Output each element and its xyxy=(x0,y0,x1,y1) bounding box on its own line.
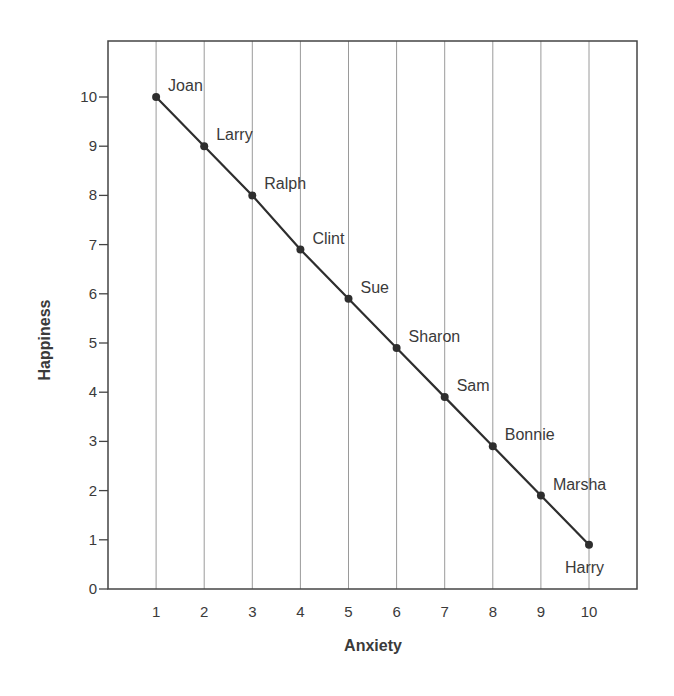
point-label-bonnie: Bonnie xyxy=(505,426,555,443)
data-point xyxy=(393,344,401,352)
y-axis-ticks: 012345678910 xyxy=(80,88,108,597)
data-line xyxy=(156,97,589,545)
data-point xyxy=(152,93,160,101)
y-tick-label: 5 xyxy=(89,334,97,351)
x-tick-label: 4 xyxy=(296,603,304,620)
point-label-sam: Sam xyxy=(457,377,490,394)
point-label-larry: Larry xyxy=(216,126,252,143)
x-tick-label: 3 xyxy=(248,603,256,620)
point-label-harry: Harry xyxy=(565,559,604,576)
vertical-gridlines xyxy=(156,41,589,589)
y-tick-label: 7 xyxy=(89,236,97,253)
x-axis-title: Anxiety xyxy=(344,637,402,654)
y-tick-label: 0 xyxy=(89,580,97,597)
scatter-line-chart: 012345678910 12345678910 JoanLarryRalphC… xyxy=(0,0,674,696)
point-label-marsha: Marsha xyxy=(553,476,606,493)
x-tick-label: 6 xyxy=(392,603,400,620)
x-tick-label: 7 xyxy=(441,603,449,620)
data-point xyxy=(345,295,353,303)
y-tick-label: 4 xyxy=(89,383,97,400)
data-point xyxy=(537,492,545,500)
point-label-joan: Joan xyxy=(168,77,203,94)
point-label-ralph: Ralph xyxy=(264,175,306,192)
data-point xyxy=(248,191,256,199)
point-label-sue: Sue xyxy=(361,279,390,296)
y-axis-title: Happiness xyxy=(36,299,53,380)
y-tick-label: 9 xyxy=(89,137,97,154)
x-tick-label: 10 xyxy=(581,603,598,620)
data-points: JoanLarryRalphClintSueSharonSamBonnieMar… xyxy=(152,77,606,576)
point-label-clint: Clint xyxy=(312,230,345,247)
x-tick-label: 5 xyxy=(344,603,352,620)
y-tick-label: 3 xyxy=(89,432,97,449)
data-point xyxy=(489,442,497,450)
y-tick-label: 2 xyxy=(89,482,97,499)
x-axis-tick-labels: 12345678910 xyxy=(152,603,597,620)
x-tick-label: 9 xyxy=(537,603,545,620)
x-tick-label: 1 xyxy=(152,603,160,620)
plot-frame xyxy=(108,41,637,589)
x-tick-label: 8 xyxy=(489,603,497,620)
y-tick-label: 10 xyxy=(80,88,97,105)
data-point xyxy=(441,393,449,401)
data-point xyxy=(200,142,208,150)
y-tick-label: 1 xyxy=(89,531,97,548)
data-point xyxy=(585,541,593,549)
data-point xyxy=(296,246,304,254)
x-tick-label: 2 xyxy=(200,603,208,620)
y-tick-label: 6 xyxy=(89,285,97,302)
point-label-sharon: Sharon xyxy=(409,328,461,345)
y-tick-label: 8 xyxy=(89,186,97,203)
